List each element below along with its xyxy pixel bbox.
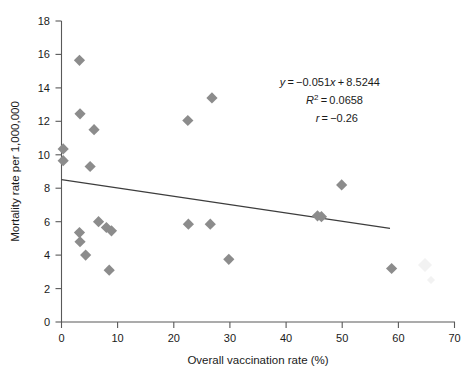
x-tick-label: 70 [448, 332, 460, 344]
equation-tail: + 8.5244 [336, 76, 380, 88]
annotation-block: y = −0.051x + 8.5244 R2 = 0.0658 r = −0.… [279, 76, 380, 124]
x-axis-ticks [62, 322, 455, 328]
y-tick-label: 10 [38, 149, 50, 161]
r-value-annotation: r = −0.26 [316, 112, 358, 124]
data-point [104, 265, 115, 276]
data-point [85, 161, 96, 172]
watermark-artifact [418, 258, 435, 284]
data-point [205, 219, 216, 230]
r-squared-symbol: R [306, 94, 314, 106]
y-tick-label: 16 [38, 48, 50, 60]
data-point [58, 143, 69, 154]
data-point [223, 254, 234, 265]
data-point [88, 124, 99, 135]
r-value: = −0.26 [319, 112, 358, 124]
data-point [336, 179, 347, 190]
x-tick-label: 30 [224, 332, 236, 344]
data-point [74, 236, 85, 247]
data-point [74, 55, 85, 66]
data-point [182, 115, 193, 126]
x-tick-label: 60 [392, 332, 404, 344]
chart-canvas: 18 16 14 12 10 8 6 4 2 0 0 10 20 3 [0, 0, 469, 376]
y-axis-tick-labels: 18 16 14 12 10 8 6 4 2 0 [38, 15, 50, 328]
data-point [80, 250, 91, 261]
y-tick-label: 0 [44, 316, 50, 328]
x-axis-title: Overall vaccination rate (%) [187, 354, 328, 366]
data-point [58, 155, 69, 166]
y-tick-label: 18 [38, 15, 50, 27]
x-tick-label: 10 [111, 332, 123, 344]
y-tick-label: 12 [38, 115, 50, 127]
y-axis-ticks [56, 21, 62, 322]
data-point [74, 108, 85, 119]
x-tick-label: 40 [280, 332, 292, 344]
scatter-plot-figure: 18 16 14 12 10 8 6 4 2 0 0 10 20 3 [0, 0, 469, 376]
r-squared-annotation: R2 = 0.0658 [306, 93, 363, 106]
x-tick-label: 20 [168, 332, 180, 344]
data-point [183, 219, 194, 230]
y-tick-label: 4 [44, 249, 50, 261]
equation-operator: = −0.051 [285, 76, 330, 88]
y-tick-label: 2 [44, 283, 50, 295]
y-tick-label: 6 [44, 216, 50, 228]
x-tick-label: 50 [336, 332, 348, 344]
data-point [74, 227, 85, 238]
y-tick-label: 14 [38, 82, 50, 94]
data-point [93, 216, 104, 227]
data-point [386, 263, 397, 274]
y-axis-title: Mortality rate per 1,000,000 [9, 101, 21, 242]
x-axis-tick-labels: 0 10 20 30 40 50 60 70 [58, 332, 460, 344]
regression-equation-annotation: y = −0.051x + 8.5244 [279, 76, 380, 88]
data-point [206, 92, 217, 103]
x-tick-label: 0 [58, 332, 64, 344]
r-squared-value: = 0.0658 [319, 94, 363, 106]
y-tick-label: 8 [44, 182, 50, 194]
